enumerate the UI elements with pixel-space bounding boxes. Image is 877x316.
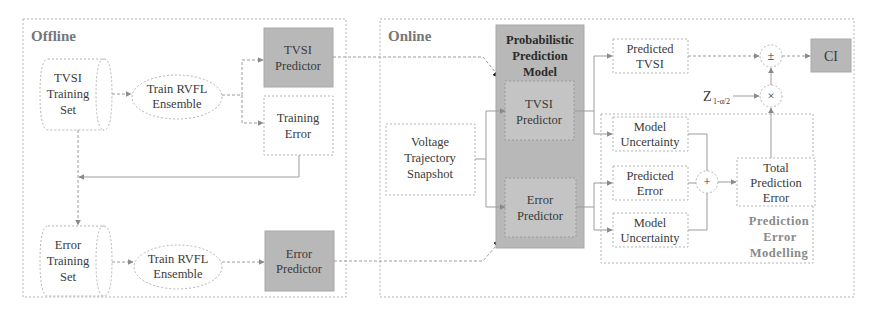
plus-minus-operator: ± bbox=[760, 45, 782, 67]
svg-text:Z: Z bbox=[703, 89, 712, 104]
training-error-box: Training Error bbox=[264, 96, 333, 155]
prediction-error-modelling-label: Prediction Error Modelling bbox=[749, 214, 809, 260]
svg-text:Model: Model bbox=[634, 120, 667, 134]
svg-text:Train RVFL: Train RVFL bbox=[148, 252, 209, 266]
svg-text:Training: Training bbox=[47, 87, 90, 101]
predicted-tvsi-box: Predicted TVSI bbox=[613, 39, 688, 73]
svg-text:Snapshot: Snapshot bbox=[407, 167, 453, 181]
svg-text:Predictor: Predictor bbox=[516, 113, 563, 127]
svg-text:Model: Model bbox=[523, 65, 558, 79]
offline-error-predictor: Error Predictor bbox=[265, 231, 334, 291]
svg-text:Error: Error bbox=[55, 238, 82, 252]
svg-text:Predicted: Predicted bbox=[626, 42, 674, 56]
svg-text:Prediction: Prediction bbox=[749, 214, 809, 228]
svg-text:TVSI: TVSI bbox=[525, 97, 553, 111]
svg-text:Error: Error bbox=[286, 247, 313, 261]
svg-text:Ensemble: Ensemble bbox=[153, 267, 203, 281]
model-uncertainty-top: Model Uncertainty bbox=[613, 117, 688, 151]
svg-text:TVSI: TVSI bbox=[636, 57, 664, 71]
svg-text:Prediction: Prediction bbox=[750, 176, 802, 190]
svg-text:Set: Set bbox=[60, 270, 77, 284]
svg-text:Voltage: Voltage bbox=[411, 135, 449, 149]
svg-text:Error: Error bbox=[285, 127, 312, 141]
online-title: Online bbox=[388, 28, 432, 44]
svg-text:Predictor: Predictor bbox=[275, 59, 322, 73]
train-rvfl-ensemble-1: Train RVFL Ensemble bbox=[132, 75, 222, 119]
total-prediction-error-box: Total Prediction Error bbox=[737, 158, 815, 206]
svg-text:Training: Training bbox=[277, 111, 320, 125]
svg-text:Predictor: Predictor bbox=[276, 262, 323, 276]
svg-text:Trajectory: Trajectory bbox=[404, 151, 456, 165]
svg-text:TVSI: TVSI bbox=[284, 43, 312, 57]
svg-text:1-α/2: 1-α/2 bbox=[713, 97, 730, 106]
offline-tvsi-predictor: TVSI Predictor bbox=[264, 28, 333, 87]
svg-text:Total: Total bbox=[763, 161, 789, 175]
svg-text:Error: Error bbox=[527, 193, 554, 207]
svg-text:Error: Error bbox=[637, 184, 664, 198]
svg-text:Set: Set bbox=[60, 103, 77, 117]
model-uncertainty-bottom: Model Uncertainty bbox=[613, 213, 688, 247]
svg-text:Training: Training bbox=[47, 254, 90, 268]
voltage-trajectory-snapshot: Voltage Trajectory Snapshot bbox=[386, 124, 475, 195]
svg-text:Model: Model bbox=[634, 216, 667, 230]
svg-text:+: + bbox=[703, 175, 710, 189]
svg-text:Modelling: Modelling bbox=[750, 246, 809, 260]
svg-text:Ensemble: Ensemble bbox=[152, 97, 202, 111]
offline-title: Offline bbox=[31, 28, 76, 44]
svg-text:Error: Error bbox=[763, 230, 797, 244]
svg-text:Probabilistic: Probabilistic bbox=[506, 33, 574, 47]
svg-text:±: ± bbox=[768, 49, 775, 63]
svg-text:Train RVFL: Train RVFL bbox=[147, 82, 208, 96]
train-rvfl-ensemble-2: Train RVFL Ensemble bbox=[134, 245, 222, 289]
tvsi-training-set-cylinder: TVSI Training Set bbox=[40, 59, 112, 130]
sum-operator: + bbox=[696, 171, 718, 193]
svg-text:×: × bbox=[767, 89, 774, 103]
svg-text:Error: Error bbox=[763, 191, 790, 205]
svg-text:Prediction: Prediction bbox=[512, 49, 567, 63]
svg-text:Uncertainty: Uncertainty bbox=[620, 231, 680, 245]
z-quantile-label: Z 1-α/2 bbox=[703, 89, 730, 106]
svg-text:TVSI: TVSI bbox=[54, 71, 82, 85]
diagram-canvas: Offline Online TVSI Training Set Train R… bbox=[0, 0, 877, 316]
ci-box: CI bbox=[811, 39, 851, 72]
online-tvsi-predictor: TVSI Predictor bbox=[505, 81, 574, 140]
svg-text:Uncertainty: Uncertainty bbox=[620, 135, 680, 149]
svg-text:Predicted: Predicted bbox=[626, 169, 674, 183]
online-error-predictor: Error Predictor bbox=[505, 178, 576, 237]
svg-text:CI: CI bbox=[824, 49, 838, 64]
multiply-operator: × bbox=[760, 85, 782, 107]
predicted-error-box: Predicted Error bbox=[613, 166, 688, 200]
error-training-set-cylinder: Error Training Set bbox=[40, 226, 112, 296]
svg-text:Predictor: Predictor bbox=[517, 209, 564, 223]
